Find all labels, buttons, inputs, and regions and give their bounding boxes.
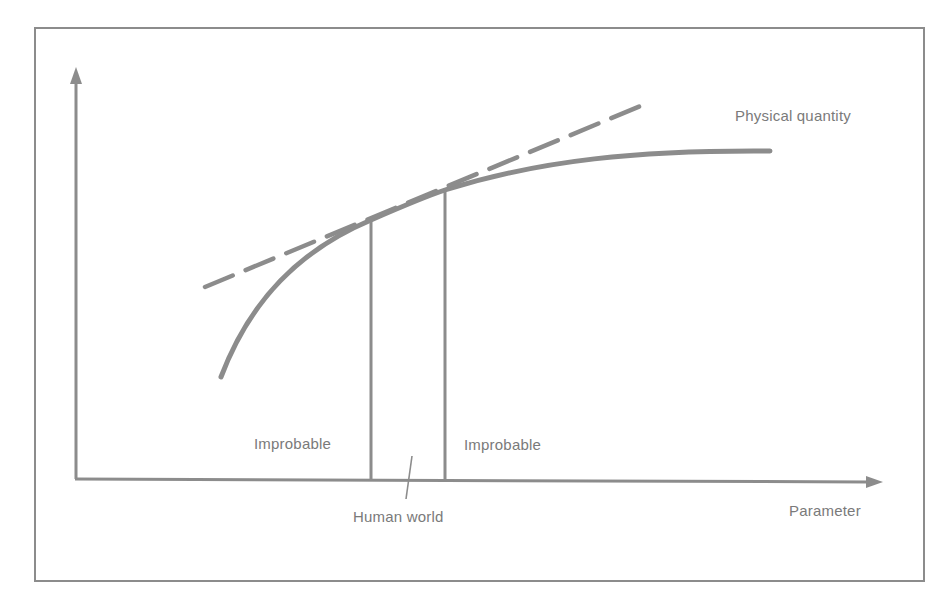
tangent-dashed-line — [205, 105, 643, 287]
x-axis-label: Parameter — [789, 502, 861, 519]
y-axis-arrow-icon — [70, 67, 82, 84]
x-axis — [75, 479, 868, 482]
x-axis-arrow-icon — [866, 476, 883, 488]
curve-label: Physical quantity — [735, 107, 851, 124]
human-world-leader-line — [406, 456, 412, 499]
region-right-label: Improbable — [464, 436, 541, 453]
region-middle-label: Human world — [353, 508, 444, 525]
physical-quantity-curve — [221, 151, 770, 377]
region-left-label: Improbable — [254, 435, 331, 452]
